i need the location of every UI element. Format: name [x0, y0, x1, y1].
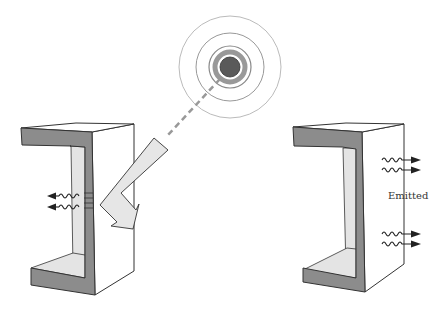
left-arrowheads: [47, 193, 56, 211]
radiation-source-icon: [179, 16, 281, 118]
right-arrowheads: [411, 157, 421, 248]
diagram-canvas: [0, 0, 439, 310]
right-channel: [293, 123, 404, 292]
emitted-label: Emitted: [388, 190, 428, 201]
dashed-ray: [168, 79, 220, 135]
